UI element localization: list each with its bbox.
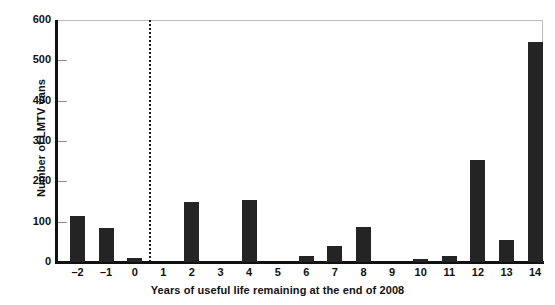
x-tick-label: 9 [377,266,407,278]
vertical-dashed-divider [149,20,151,262]
y-tick-label: 400 [5,94,51,106]
y-tick-label: 600 [5,13,51,25]
x-tick-label: 12 [463,266,493,278]
bar [356,227,371,262]
bars-container [57,20,543,262]
x-tick-label: 10 [406,266,436,278]
x-tick-label: –2 [63,266,93,278]
bar [184,202,199,262]
y-tick-label: 200 [5,174,51,186]
x-tick-label: 13 [492,266,522,278]
y-tick-label: 0 [5,255,51,267]
x-tick-label: 1 [148,266,178,278]
x-tick-label: 5 [263,266,293,278]
x-tick-label: 14 [520,266,550,278]
y-tick-label: 500 [5,53,51,65]
bar-chart-figure: Number of LMTV vans 0100200300400500600 … [0,0,555,305]
bar [442,256,457,262]
y-tick-label: 300 [5,134,51,146]
x-tick-label: 3 [206,266,236,278]
x-tick-label: 7 [320,266,350,278]
bar [499,240,514,262]
x-tick-label: –1 [91,266,121,278]
bar [413,259,428,262]
bar [528,42,543,262]
bar [127,258,142,262]
x-tick-label: 4 [234,266,264,278]
x-axis-title: Years of useful life remaining at the en… [0,284,555,296]
x-tick-label: 2 [177,266,207,278]
bar [70,216,85,262]
x-tick-label: 8 [349,266,379,278]
bar [299,256,314,262]
x-tick-label: 0 [120,266,150,278]
y-tick-label: 100 [5,215,51,227]
bar [99,228,114,262]
x-tick-label: 11 [434,266,464,278]
bar [327,246,342,262]
bar [242,200,257,262]
x-tick-label: 6 [291,266,321,278]
bar [470,160,485,262]
